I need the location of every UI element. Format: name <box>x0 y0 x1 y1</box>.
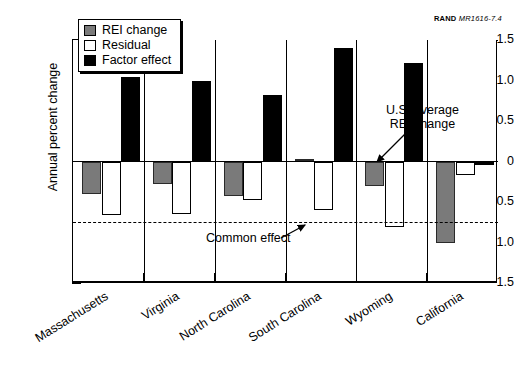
bar-res <box>172 162 191 215</box>
bar-fac <box>121 77 140 161</box>
bar-rei <box>224 162 243 196</box>
bar-fac <box>404 63 423 162</box>
bar-rei <box>365 162 384 186</box>
bar-res <box>243 162 262 201</box>
common-effect-line <box>73 222 498 223</box>
bar-res <box>102 162 121 215</box>
chart-root: RAND MR1616-7.4 Annual percent change 1.… <box>0 0 514 380</box>
zero-reference-line <box>73 161 498 163</box>
bar-rei <box>153 162 172 185</box>
bar-rei <box>82 162 101 194</box>
bar-fac <box>192 81 211 162</box>
bar-fac <box>263 95 282 161</box>
bar-rei <box>436 162 455 243</box>
bar-res <box>456 162 475 176</box>
bar-res <box>314 162 333 211</box>
bar-fac <box>334 48 353 161</box>
bar-res <box>385 162 404 228</box>
